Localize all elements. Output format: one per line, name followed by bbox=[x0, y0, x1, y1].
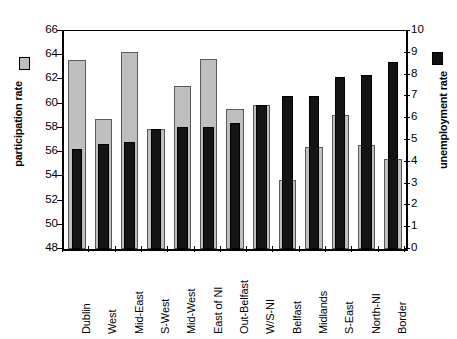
x-tick-mark bbox=[141, 246, 142, 252]
bar-unemployment-rate bbox=[388, 62, 399, 249]
bar-chart: participation rate unemployment rate 485… bbox=[0, 0, 457, 339]
bar-group bbox=[332, 31, 349, 249]
bar-group bbox=[121, 31, 138, 249]
x-tick-mark bbox=[220, 246, 221, 252]
x-axis-label-s-west: S-West bbox=[159, 299, 171, 334]
left-tick-label-48: 48 bbox=[36, 242, 58, 253]
bar-group bbox=[68, 31, 85, 249]
left-tick-label-58: 58 bbox=[36, 121, 58, 132]
right-tick-label-6: 6 bbox=[411, 111, 431, 122]
right-tick-label-0: 0 bbox=[411, 242, 431, 253]
x-axis-label-border: Border bbox=[396, 302, 408, 334]
x-tick-mark bbox=[167, 246, 168, 252]
x-tick-mark bbox=[378, 246, 379, 252]
bar-group bbox=[200, 31, 217, 249]
bar-unemployment-rate bbox=[177, 127, 188, 249]
bar-unemployment-rate bbox=[309, 96, 320, 249]
x-tick-mark bbox=[88, 246, 89, 252]
left-axis-tick-labels: 48505254565860626466 bbox=[33, 0, 58, 339]
x-tick-mark bbox=[115, 246, 116, 252]
x-tick-mark bbox=[62, 246, 63, 252]
right-axis-title: unemployment rate bbox=[437, 55, 449, 185]
left-tick-label-60: 60 bbox=[36, 97, 58, 108]
x-axis-label-east-of-ni: East of NI bbox=[212, 287, 224, 334]
x-axis-label-mid-west: Mid-West bbox=[185, 289, 197, 334]
bar-unemployment-rate bbox=[335, 77, 346, 249]
left-tick-label-66: 66 bbox=[36, 24, 58, 35]
bar-group bbox=[226, 31, 243, 249]
x-tick-mark bbox=[194, 246, 195, 252]
right-tick-label-8: 8 bbox=[411, 68, 431, 79]
x-axis-label-out-belfast: Out-Belfast bbox=[238, 280, 250, 334]
x-axis-label-dublin: Dublin bbox=[80, 303, 92, 334]
bar-group bbox=[384, 31, 401, 249]
x-tick-mark bbox=[246, 246, 247, 252]
bar-unemployment-rate bbox=[72, 149, 83, 249]
left-tick-label-56: 56 bbox=[36, 145, 58, 156]
right-tick-label-10: 10 bbox=[411, 24, 431, 35]
bar-unemployment-rate bbox=[98, 144, 109, 249]
bar-group bbox=[95, 31, 112, 249]
right-tick-label-9: 9 bbox=[411, 46, 431, 57]
x-tick-mark bbox=[299, 246, 300, 252]
x-axis-label-north-ni: North-NI bbox=[370, 293, 382, 334]
right-tick-label-3: 3 bbox=[411, 177, 431, 188]
legend-swatch-participation-rate bbox=[19, 57, 30, 70]
right-tick-label-5: 5 bbox=[411, 133, 431, 144]
bar-unemployment-rate bbox=[361, 75, 372, 249]
bar-unemployment-rate bbox=[230, 123, 241, 249]
bar-unemployment-rate bbox=[256, 105, 267, 249]
bar-unemployment-rate bbox=[124, 142, 135, 249]
plot-area bbox=[62, 30, 408, 251]
x-axis-label-midlands: Midlands bbox=[317, 291, 329, 334]
x-axis-label-w-s-ni: W/S-NI bbox=[264, 299, 276, 334]
bar-unemployment-rate bbox=[151, 129, 162, 249]
x-axis-label-s-east: S-East bbox=[343, 302, 355, 334]
bar-unemployment-rate bbox=[203, 127, 214, 249]
right-tick-label-4: 4 bbox=[411, 155, 431, 166]
bar-group bbox=[174, 31, 191, 249]
x-tick-mark bbox=[272, 246, 273, 252]
x-tick-mark bbox=[325, 246, 326, 252]
x-tick-mark bbox=[404, 246, 405, 252]
left-axis-title: participation rate bbox=[12, 64, 24, 184]
left-tick-label-54: 54 bbox=[36, 169, 58, 180]
left-tick-label-50: 50 bbox=[36, 218, 58, 229]
bar-group bbox=[279, 31, 296, 249]
right-axis-tick-labels: 012345678910 bbox=[411, 0, 433, 339]
bar-unemployment-rate bbox=[282, 96, 293, 249]
x-axis-label-belfast: Belfast bbox=[291, 301, 303, 334]
left-tick-label-52: 52 bbox=[36, 194, 58, 205]
legend-swatch-unemployment-rate bbox=[432, 52, 443, 65]
x-axis-label-mid-east: Mid-East bbox=[133, 291, 145, 334]
bar-group bbox=[305, 31, 322, 249]
left-tick-label-62: 62 bbox=[36, 72, 58, 83]
x-axis-label-west: West bbox=[106, 310, 118, 334]
bar-group bbox=[147, 31, 164, 249]
right-tick-label-1: 1 bbox=[411, 220, 431, 231]
bar-group bbox=[358, 31, 375, 249]
right-tick-label-2: 2 bbox=[411, 198, 431, 209]
x-tick-mark bbox=[351, 246, 352, 252]
bars-layer bbox=[64, 31, 406, 249]
bar-group bbox=[253, 31, 270, 249]
right-tick-label-7: 7 bbox=[411, 89, 431, 100]
left-tick-label-64: 64 bbox=[36, 48, 58, 59]
x-axis-category-labels: DublinWestMid-EastS-WestMid-WestEast of … bbox=[62, 252, 404, 339]
